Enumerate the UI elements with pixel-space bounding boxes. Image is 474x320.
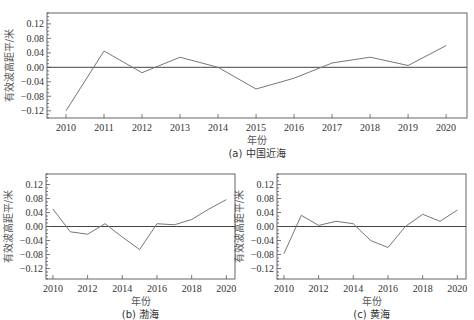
y-tick-label: 0.08 <box>27 33 45 44</box>
y-tick-label: 0.08 <box>257 193 275 204</box>
figure: −0.12−0.08−0.040.000.040.080.12201020112… <box>0 0 474 320</box>
plot-frame <box>47 13 467 118</box>
y-tick-label: 0.12 <box>26 179 44 190</box>
y-tick-label: −0.08 <box>20 249 43 260</box>
y-tick-label: −0.12 <box>21 105 44 116</box>
y-tick-label: −0.04 <box>21 76 44 87</box>
data-series-line <box>66 46 446 111</box>
y-tick-label: −0.04 <box>251 235 274 246</box>
x-tick-label: 2015 <box>246 122 266 133</box>
x-tick-label: 2017 <box>322 122 342 133</box>
y-axis-label: 有效波高距平/米 <box>233 190 245 263</box>
x-tick-label: 2014 <box>208 122 228 133</box>
x-tick-label: 2012 <box>78 283 98 294</box>
y-tick-label: 0.00 <box>27 62 45 73</box>
chart-caption: (a) 中国近海 <box>228 147 285 159</box>
x-tick-label: 2020 <box>447 283 467 294</box>
y-tick-label: −0.12 <box>251 263 274 274</box>
chart-caption: (b) 渤海 <box>122 308 159 320</box>
y-tick-label: 0.00 <box>257 221 275 232</box>
y-tick-label: 0.00 <box>26 221 44 232</box>
x-tick-label: 2020 <box>436 122 456 133</box>
data-series-line <box>53 200 226 250</box>
y-tick-label: −0.08 <box>251 249 274 260</box>
x-tick-label: 2016 <box>147 283 167 294</box>
x-tick-label: 2010 <box>274 283 294 294</box>
data-series-line <box>284 210 457 254</box>
x-tick-label: 2010 <box>56 122 76 133</box>
x-tick-label: 2011 <box>94 122 114 133</box>
x-tick-label: 2014 <box>343 283 363 294</box>
y-tick-label: 0.12 <box>27 18 45 29</box>
y-tick-label: −0.04 <box>20 235 43 246</box>
x-tick-label: 2016 <box>284 122 304 133</box>
x-tick-label: 2018 <box>182 283 202 294</box>
x-tick-label: 2013 <box>170 122 190 133</box>
x-tick-label: 2018 <box>413 283 433 294</box>
y-tick-label: −0.12 <box>20 263 43 274</box>
chart-c: −0.12−0.08−0.040.000.040.080.12201020122… <box>233 174 467 320</box>
x-tick-label: 2019 <box>398 122 418 133</box>
y-tick-label: 0.04 <box>26 207 44 218</box>
x-tick-label: 2012 <box>132 122 152 133</box>
y-tick-label: 0.04 <box>27 47 45 58</box>
x-axis-label: 年份 <box>247 134 267 146</box>
y-axis-label: 有效波高距平/米 <box>3 29 15 102</box>
x-tick-label: 2014 <box>112 283 132 294</box>
y-tick-label: 0.12 <box>257 179 275 190</box>
y-tick-label: 0.04 <box>257 207 275 218</box>
x-tick-label: 2020 <box>216 283 236 294</box>
x-tick-label: 2016 <box>378 283 398 294</box>
x-tick-label: 2018 <box>360 122 380 133</box>
y-tick-label: −0.08 <box>21 91 44 102</box>
x-tick-label: 2010 <box>43 283 63 294</box>
chart-b: −0.12−0.08−0.040.000.040.080.12201020122… <box>2 174 236 320</box>
x-axis-label: 年份 <box>131 295 151 307</box>
chart-a: −0.12−0.08−0.040.000.040.080.12201020112… <box>3 13 467 159</box>
x-axis-label: 年份 <box>362 295 382 307</box>
chart-caption: (c) 黄海 <box>353 308 389 320</box>
x-tick-label: 2012 <box>309 283 329 294</box>
y-tick-label: 0.08 <box>26 193 44 204</box>
y-axis-label: 有效波高距平/米 <box>2 190 14 263</box>
